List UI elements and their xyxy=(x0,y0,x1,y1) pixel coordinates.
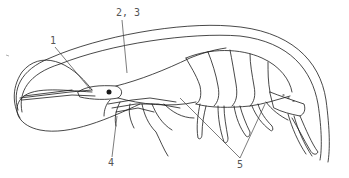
leader-5b xyxy=(240,104,265,158)
tail-base xyxy=(270,92,305,116)
pleopod-4 xyxy=(252,104,273,131)
label-2-3: 2, 3 xyxy=(116,8,140,18)
pleopod-5 xyxy=(266,102,288,120)
segment-1 xyxy=(186,58,201,104)
segment-3 xyxy=(230,50,237,106)
label-5: 5 xyxy=(237,160,243,170)
pereiopod-4 xyxy=(142,104,168,156)
segment-2 xyxy=(208,52,219,106)
segment-5 xyxy=(268,62,270,92)
leader-2-3 xyxy=(122,20,127,73)
antenna-outer-2 xyxy=(14,60,92,118)
shrimp-diagram: 1 2, 3 4 5 xyxy=(0,0,349,178)
maxilliped-3 xyxy=(116,108,154,112)
segment-4 xyxy=(250,54,255,106)
leader-1 xyxy=(55,47,90,89)
pereiopod-1 xyxy=(104,100,110,116)
pleopod-3 xyxy=(234,106,250,137)
body-top xyxy=(186,51,292,93)
abdomen-bottom xyxy=(196,96,290,107)
leader-4 xyxy=(112,116,117,157)
head-outline xyxy=(78,86,122,100)
label-1: 1 xyxy=(50,36,56,46)
carapace-top xyxy=(116,48,226,86)
pereiopod-5 xyxy=(152,104,172,130)
eye xyxy=(107,90,112,95)
uropod-3 xyxy=(288,114,306,154)
label-4: 4 xyxy=(108,158,114,168)
pleopod-1 xyxy=(197,104,206,139)
edge-mark xyxy=(6,55,9,56)
maxilliped-2 xyxy=(112,104,180,108)
antenna-long-1 xyxy=(16,25,329,162)
shrimp-drawing xyxy=(0,0,349,178)
antenna-long-2 xyxy=(21,35,321,160)
